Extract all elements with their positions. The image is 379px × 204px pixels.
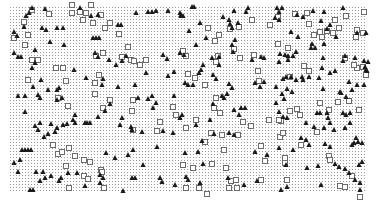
square-marker <box>64 79 69 84</box>
square-marker <box>174 113 179 118</box>
square-marker <box>307 22 312 27</box>
square-marker <box>60 150 65 155</box>
square-marker <box>259 178 264 183</box>
square-marker <box>281 131 286 136</box>
square-marker <box>108 21 113 26</box>
scatter-plot <box>0 0 379 204</box>
square-marker <box>238 56 243 61</box>
square-marker <box>263 159 268 164</box>
square-marker <box>193 76 198 81</box>
square-marker <box>30 58 35 63</box>
square-marker <box>66 104 71 109</box>
square-marker <box>91 21 96 26</box>
square-marker <box>144 58 149 63</box>
square-marker <box>210 162 215 167</box>
square-marker <box>218 111 223 116</box>
square-marker <box>312 33 317 38</box>
square-marker <box>343 185 348 190</box>
square-marker <box>64 164 69 169</box>
square-marker <box>101 51 106 56</box>
square-marker <box>217 33 222 38</box>
square-marker <box>362 10 367 15</box>
square-marker <box>26 33 31 38</box>
square-marker <box>213 39 218 44</box>
square-marker <box>336 100 341 105</box>
square-marker <box>352 63 357 68</box>
square-marker <box>331 31 336 36</box>
square-marker <box>86 177 91 182</box>
square-marker <box>194 118 199 123</box>
square-marker <box>67 186 72 191</box>
square-marker <box>224 166 229 171</box>
square-marker <box>181 163 186 168</box>
square-marker <box>171 105 176 110</box>
square-marker <box>337 26 342 31</box>
square-marker <box>344 14 349 19</box>
square-marker <box>358 195 363 200</box>
square-marker <box>82 158 87 163</box>
square-marker <box>47 12 52 17</box>
square-marker <box>249 124 254 129</box>
square-marker <box>73 154 78 159</box>
square-marker <box>93 92 98 97</box>
square-marker <box>191 166 196 171</box>
square-marker <box>184 186 189 191</box>
square-marker <box>307 69 312 74</box>
square-marker <box>347 99 352 104</box>
square-marker <box>102 186 107 191</box>
square-marker <box>206 26 211 31</box>
square-marker <box>132 59 137 64</box>
square-marker <box>184 126 189 131</box>
square-marker <box>295 107 300 112</box>
square-marker <box>241 120 246 125</box>
square-marker <box>78 10 83 15</box>
square-marker <box>158 120 163 125</box>
square-marker <box>283 156 288 161</box>
square-marker <box>197 186 202 191</box>
square-marker <box>130 109 135 114</box>
square-marker <box>256 69 261 74</box>
square-marker <box>286 46 291 51</box>
square-marker <box>103 26 108 31</box>
square-marker <box>126 45 131 50</box>
square-marker <box>302 64 307 69</box>
square-marker <box>318 30 323 35</box>
square-marker <box>288 109 293 114</box>
square-marker <box>250 18 255 23</box>
square-marker <box>299 143 304 148</box>
square-marker <box>205 192 210 197</box>
square-marker <box>81 18 86 23</box>
square-marker <box>320 35 325 40</box>
square-marker <box>36 58 41 63</box>
square-marker <box>220 133 225 138</box>
square-marker <box>67 146 72 151</box>
square-marker <box>315 130 320 135</box>
square-marker <box>252 53 257 58</box>
square-marker <box>84 11 89 16</box>
square-marker <box>117 32 122 37</box>
square-marker <box>227 186 232 191</box>
square-marker <box>338 184 343 189</box>
square-marker <box>214 96 219 101</box>
square-marker <box>234 178 239 183</box>
square-marker <box>23 43 28 48</box>
square-marker <box>138 63 143 68</box>
square-marker <box>268 23 273 28</box>
square-marker <box>267 118 272 123</box>
square-marker <box>131 98 136 103</box>
square-marker <box>357 108 362 113</box>
square-marker <box>305 11 310 16</box>
square-marker <box>70 3 75 8</box>
square-marker <box>285 178 290 183</box>
square-marker <box>186 72 191 77</box>
square-marker <box>51 143 56 148</box>
square-marker <box>89 3 94 8</box>
square-marker <box>70 11 75 16</box>
square-marker <box>235 186 240 191</box>
square-marker <box>328 158 333 163</box>
square-marker <box>237 25 242 30</box>
square-marker <box>214 60 219 65</box>
square-marker <box>93 81 98 86</box>
square-marker <box>276 42 281 47</box>
square-marker <box>26 78 31 83</box>
